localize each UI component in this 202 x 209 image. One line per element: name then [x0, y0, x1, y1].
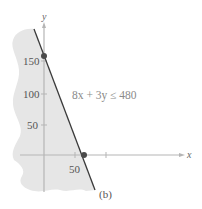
x-axis-label: x	[186, 149, 192, 160]
y-tick-label-150: 150	[23, 55, 40, 67]
figure-caption: (b)	[99, 188, 112, 201]
inequality-graph: y x 150 100 50 50 8x + 3y ≤ 480 (b)	[0, 0, 202, 209]
x-tick-label-50: 50	[69, 163, 81, 175]
x-intercept-point	[81, 152, 87, 158]
shaded-region	[12, 29, 95, 192]
y-intercept-point	[41, 53, 47, 59]
y-axis-arrow-icon	[42, 22, 46, 28]
y-axis-label: y	[41, 11, 47, 22]
x-axis-arrow-icon	[179, 153, 185, 157]
y-tick-label-100: 100	[23, 88, 40, 100]
inequality-label: 8x + 3y ≤ 480	[72, 89, 137, 102]
y-tick-label-50: 50	[27, 119, 39, 131]
